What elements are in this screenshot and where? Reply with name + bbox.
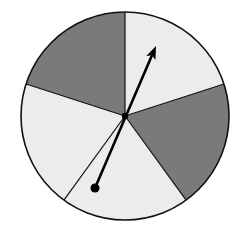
spinner-pivot — [122, 113, 128, 119]
spinner-svg — [0, 0, 244, 228]
arrow-tail-dot — [91, 184, 100, 193]
spinner-figure — [0, 0, 244, 228]
